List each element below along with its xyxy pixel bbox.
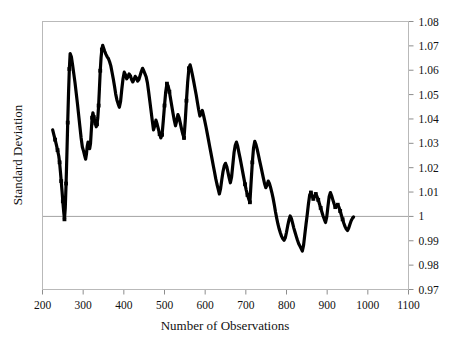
- x-axis-ticks: [43, 290, 409, 295]
- series-marker: [185, 99, 189, 103]
- y-tick-label: 1.08: [419, 16, 439, 28]
- y-tick-label: 1: [419, 210, 425, 222]
- series-marker: [319, 206, 323, 210]
- plot-frame: [43, 22, 409, 290]
- series-marker: [250, 160, 254, 164]
- y-tick-label: 0.98: [419, 259, 439, 271]
- series-marker: [61, 199, 65, 203]
- series-marker: [246, 193, 250, 197]
- series-marker: [187, 66, 191, 70]
- x-tick-label: 200: [34, 299, 52, 311]
- series-marker: [95, 122, 99, 126]
- x-tick-label: 1000: [356, 299, 379, 311]
- y-tick-label: 1.06: [419, 64, 439, 76]
- series-marker: [311, 197, 315, 201]
- series-marker: [309, 191, 313, 195]
- series-marker: [63, 217, 67, 221]
- x-tick-label: 800: [278, 299, 296, 311]
- series-marker: [248, 200, 252, 204]
- series-marker: [53, 138, 57, 142]
- series-marker: [160, 133, 164, 137]
- series-marker: [98, 69, 102, 73]
- series-marker: [243, 182, 247, 186]
- y-axis-title: Standard Deviation: [10, 104, 25, 205]
- data-series: [53, 45, 354, 251]
- x-tick-label: 500: [156, 299, 174, 311]
- series-marker: [64, 182, 68, 186]
- series-marker: [100, 48, 104, 52]
- series-marker: [92, 115, 96, 119]
- chart-svg: 20030040050060070080090010001100 0.970.9…: [0, 0, 459, 342]
- y-tick-label: 1.05: [419, 89, 439, 101]
- series-marker: [167, 90, 171, 94]
- y-tick-label: 1.07: [419, 40, 439, 52]
- x-tick-label: 600: [197, 299, 215, 311]
- series-marker: [338, 209, 342, 213]
- x-tick-label: 700: [237, 299, 255, 311]
- series-marker: [336, 203, 340, 207]
- series-marker: [66, 121, 70, 125]
- y-axis-ticks: [409, 22, 414, 290]
- series-marker: [316, 198, 320, 202]
- chart-figure: 20030040050060070080090010001100 0.970.9…: [0, 0, 459, 342]
- y-tick-label: 0.99: [419, 235, 439, 247]
- series-marker: [58, 160, 62, 164]
- y-tick-label: 0.97: [419, 284, 439, 296]
- series-marker: [314, 192, 318, 196]
- series-marker: [163, 104, 167, 108]
- series-marker: [341, 217, 345, 221]
- series-marker: [97, 104, 101, 108]
- x-tick-label: 300: [75, 299, 93, 311]
- y-tick-labels: 0.970.980.9911.011.021.031.041.051.061.0…: [419, 16, 439, 296]
- x-tick-labels: 20030040050060070080090010001100: [34, 299, 420, 311]
- x-tick-label: 400: [115, 299, 133, 311]
- series-marker: [56, 148, 60, 152]
- x-axis-title: Number of Observations: [161, 318, 290, 333]
- y-tick-label: 1.04: [419, 113, 439, 125]
- series-marker: [59, 179, 63, 183]
- series-line: [53, 45, 354, 251]
- x-tick-label: 1100: [397, 299, 420, 311]
- x-tick-label: 900: [319, 299, 337, 311]
- series-marker: [182, 136, 186, 140]
- series-marker: [67, 67, 71, 71]
- y-tick-label: 1.01: [419, 186, 439, 198]
- y-tick-label: 1.02: [419, 162, 439, 174]
- series-marker: [165, 82, 169, 86]
- y-tick-label: 1.03: [419, 137, 439, 149]
